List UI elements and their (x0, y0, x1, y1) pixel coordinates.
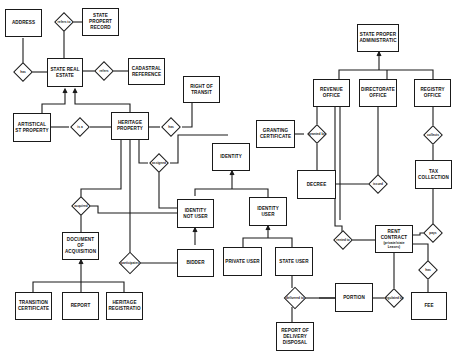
entity-identity-user[interactable]: Identity User (249, 197, 287, 226)
entity-address[interactable]: Address (5, 9, 42, 37)
er-diagram: Address State Propert Record State Real … (0, 0, 461, 358)
entity-state-property-administration[interactable]: State Proper Administratic (357, 24, 399, 52)
entity-registry-office[interactable]: Registry Office (414, 79, 451, 107)
entity-cadastral-reference[interactable]: Cadastral Reference (128, 58, 165, 85)
entity-bidder[interactable]: Bidder (177, 249, 214, 277)
entity-portion[interactable]: Portion (335, 283, 373, 312)
entity-state-real-estate[interactable]: State Real Estate (47, 58, 83, 87)
entity-artistical-property[interactable]: Artistical St Property (13, 113, 51, 142)
entity-report[interactable]: Report (62, 292, 99, 320)
entity-decree[interactable]: Decree (297, 170, 336, 199)
entity-state-user[interactable]: State User (275, 247, 313, 276)
entity-heritage-registration[interactable]: Heritage Registratio (106, 292, 143, 320)
entity-tax-collection[interactable]: Tax Collection (415, 160, 452, 189)
entity-transition-certificate[interactable]: Transition Certificate (15, 292, 52, 320)
entity-granting-certificate[interactable]: Granting Certificate (256, 120, 295, 148)
entity-private-user[interactable]: Private User (223, 247, 262, 276)
entity-revenue-office[interactable]: Revenue Office (313, 79, 350, 107)
entity-right-of-transit[interactable]: Right of Transit (183, 76, 220, 103)
entity-directorate-office[interactable]: Directorate Office (359, 79, 397, 107)
entity-heritage-property[interactable]: Heritage Property (111, 112, 149, 140)
entity-identity[interactable]: Identity (212, 143, 250, 171)
entity-identity-not-user[interactable]: Identity Not User (177, 199, 214, 228)
entity-state-property-record[interactable]: State Propert Record (82, 8, 119, 36)
entity-fee[interactable]: Fee (411, 292, 447, 320)
entity-rent-contract[interactable]: Rent Contract (private/state Leases) (375, 225, 413, 253)
entity-document-of-acquisition[interactable]: Document of Acquisition (62, 232, 99, 260)
entity-report-of-delivery[interactable]: Report of Delivery Disposal (276, 322, 314, 351)
